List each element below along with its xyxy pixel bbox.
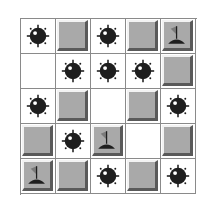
- covered-tile[interactable]: [162, 20, 193, 51]
- covered-tile[interactable]: [57, 20, 88, 51]
- cell-r2-c3[interactable]: [91, 54, 126, 89]
- mine-icon: [91, 19, 125, 53]
- mine-icon: [56, 54, 90, 88]
- cell-r5-c2[interactable]: [56, 159, 91, 194]
- cell-r2-c1[interactable]: [21, 54, 56, 89]
- cell-r3-c5[interactable]: [161, 89, 196, 124]
- covered-tile[interactable]: [22, 160, 53, 191]
- covered-tile[interactable]: [127, 20, 158, 51]
- cell-r5-c4[interactable]: [126, 159, 161, 194]
- cell-r2-c5[interactable]: [161, 54, 196, 89]
- covered-tile[interactable]: [127, 160, 158, 191]
- covered-tile[interactable]: [127, 90, 158, 121]
- cell-r5-c1[interactable]: [21, 159, 56, 194]
- covered-tile[interactable]: [92, 125, 123, 156]
- mine-icon: [91, 159, 125, 193]
- cell-r5-c3[interactable]: [91, 159, 126, 194]
- covered-tile[interactable]: [57, 160, 88, 191]
- cell-r1-c1[interactable]: [21, 19, 56, 54]
- flag-icon: [94, 127, 120, 153]
- covered-tile[interactable]: [22, 125, 53, 156]
- covered-tile[interactable]: [162, 55, 193, 86]
- cell-r3-c4[interactable]: [126, 89, 161, 124]
- mine-icon: [126, 54, 160, 88]
- mine-icon: [56, 124, 90, 158]
- mine-icon: [161, 159, 195, 193]
- cell-r1-c2[interactable]: [56, 19, 91, 54]
- mine-icon: [21, 19, 55, 53]
- cell-r4-c3[interactable]: [91, 124, 126, 159]
- cell-r3-c1[interactable]: [21, 89, 56, 124]
- cell-r4-c2[interactable]: [56, 124, 91, 159]
- flag-icon: [24, 162, 50, 188]
- mine-icon: [161, 89, 195, 123]
- cell-r1-c5[interactable]: [161, 19, 196, 54]
- cell-r2-c2[interactable]: [56, 54, 91, 89]
- cell-r4-c5[interactable]: [161, 124, 196, 159]
- mine-icon: [91, 54, 125, 88]
- covered-tile[interactable]: [162, 125, 193, 156]
- cell-r4-c4[interactable]: [126, 124, 161, 159]
- cell-r4-c1[interactable]: [21, 124, 56, 159]
- mine-icon: [21, 89, 55, 123]
- cell-r3-c2[interactable]: [56, 89, 91, 124]
- cell-r3-c3[interactable]: [91, 89, 126, 124]
- cell-r5-c5[interactable]: [161, 159, 196, 194]
- cell-r2-c4[interactable]: [126, 54, 161, 89]
- flag-icon: [164, 22, 190, 48]
- cell-r1-c3[interactable]: [91, 19, 126, 54]
- cell-r1-c4[interactable]: [126, 19, 161, 54]
- covered-tile[interactable]: [57, 90, 88, 121]
- game-board: [20, 18, 197, 195]
